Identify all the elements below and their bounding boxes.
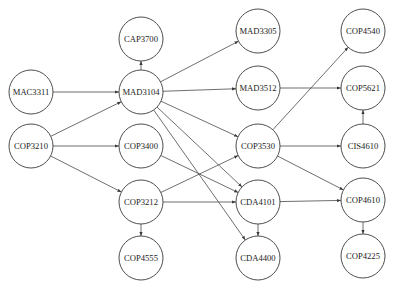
node-cop3530: COP3530 xyxy=(236,124,280,168)
node-label: CAP3700 xyxy=(124,34,158,44)
node-cop4610: COP4610 xyxy=(341,178,385,222)
node-cop4225: COP4225 xyxy=(341,234,385,278)
node-label: COP4555 xyxy=(124,253,158,263)
node-mad3305: MAD3305 xyxy=(236,9,280,53)
course-prerequisite-graph: CAP3700MAD3104MAC3311COP3210COP3400COP32… xyxy=(0,0,394,289)
node-cap3700: CAP3700 xyxy=(119,17,163,61)
node-label: COP5621 xyxy=(346,83,380,93)
node-label: MAC3311 xyxy=(13,87,49,97)
edge-cop3210-to-mad3104 xyxy=(51,102,122,137)
edge-mad3104-to-mad3512 xyxy=(163,89,236,92)
node-cis4610: CIS4610 xyxy=(341,124,385,168)
node-label: COP3530 xyxy=(241,141,275,151)
node-cop3212: COP3212 xyxy=(119,180,163,224)
node-label: MAD3512 xyxy=(239,83,276,93)
node-label: COP3400 xyxy=(124,141,158,151)
edges-layer xyxy=(51,41,363,240)
node-cda4101: CDA4101 xyxy=(236,180,280,224)
node-cop3210: COP3210 xyxy=(9,124,53,168)
node-label: CDA4101 xyxy=(240,197,275,207)
node-label: COP4540 xyxy=(346,26,380,36)
node-label: COP3212 xyxy=(124,197,158,207)
node-mad3104: MAD3104 xyxy=(119,70,163,114)
node-cda4400: CDA4400 xyxy=(236,236,280,280)
node-label: CDA4400 xyxy=(240,253,275,263)
node-cop3400: COP3400 xyxy=(119,124,163,168)
edge-cop3210-to-cop3212 xyxy=(51,156,122,192)
node-cop4555: COP4555 xyxy=(119,236,163,280)
edge-mad3104-to-cda4400 xyxy=(154,110,246,240)
edge-cop3530-to-cop4540 xyxy=(273,47,348,130)
edge-mad3104-to-mad3305 xyxy=(161,41,239,82)
node-label: CIS4610 xyxy=(348,141,379,151)
node-mac3311: MAC3311 xyxy=(9,70,53,114)
node-cop4540: COP4540 xyxy=(341,9,385,53)
node-mad3512: MAD3512 xyxy=(236,66,280,110)
node-label: MAD3104 xyxy=(122,87,160,97)
node-label: COP4225 xyxy=(346,251,380,261)
node-label: MAD3305 xyxy=(239,26,276,36)
node-cop5621: COP5621 xyxy=(341,66,385,110)
node-label: COP3210 xyxy=(14,141,48,151)
node-label: COP4610 xyxy=(346,195,380,205)
edge-cda4101-to-cop4610 xyxy=(280,200,341,201)
edge-cop3530-to-cop4610 xyxy=(278,156,344,190)
edge-mad3104-to-cop3530 xyxy=(161,101,238,137)
